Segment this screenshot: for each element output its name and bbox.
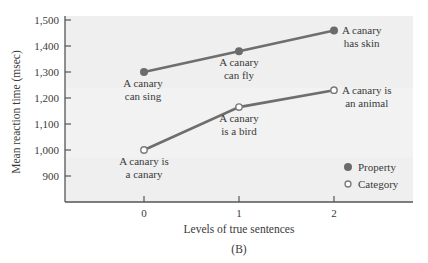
y-axis: 9001,0001,1001,2001,3001,4001,500 (34, 14, 71, 202)
legend-property-marker-icon (344, 163, 352, 171)
y-tick-label: 1,400 (34, 40, 59, 52)
annotation-property-1: A canary (219, 56, 259, 68)
annotation-property-0: A canary (123, 77, 163, 89)
annotation-category-2: A canary is (342, 84, 391, 96)
data-point-property (235, 47, 243, 55)
annotation-category-2: an animal (345, 97, 388, 109)
y-tick-label: 1,100 (34, 118, 59, 130)
figure-caption: (B) (231, 243, 247, 256)
legend-category-label: Category (358, 178, 399, 190)
data-point-category (236, 104, 242, 110)
x-axis-title: Levels of true sentences (184, 223, 295, 235)
y-tick-label: 1,200 (34, 92, 59, 104)
x-tick-label: 2 (331, 207, 337, 219)
y-tick-label: 1,000 (34, 144, 59, 156)
y-axis-title: Mean reaction time (msec) (10, 50, 23, 174)
data-point-category (331, 87, 337, 93)
data-point-property (140, 68, 148, 76)
x-tick-label: 0 (141, 207, 147, 219)
line-chart: 9001,0001,1001,2001,3001,4001,500 012 A … (0, 0, 428, 263)
annotation-category-0: a canary (126, 168, 163, 180)
legend-property-label: Property (358, 161, 396, 173)
annotation-category-1: A canary (219, 112, 259, 124)
y-tick-label: 1,300 (34, 66, 59, 78)
annotation-category-1: is a bird (221, 125, 257, 137)
data-point-property (330, 26, 338, 34)
y-tick-label: 900 (43, 170, 60, 182)
data-point-category (141, 147, 147, 153)
legend-category-marker-icon (345, 181, 351, 187)
annotation-property-2: has skin (344, 37, 380, 49)
annotation-property-2: A canary (342, 24, 382, 36)
annotation-property-0: can sing (125, 90, 162, 102)
annotation-category-0: A canary is (119, 155, 168, 167)
annotation-property-1: can fly (224, 69, 255, 81)
y-tick-label: 1,500 (34, 14, 59, 26)
x-tick-label: 1 (236, 207, 242, 219)
